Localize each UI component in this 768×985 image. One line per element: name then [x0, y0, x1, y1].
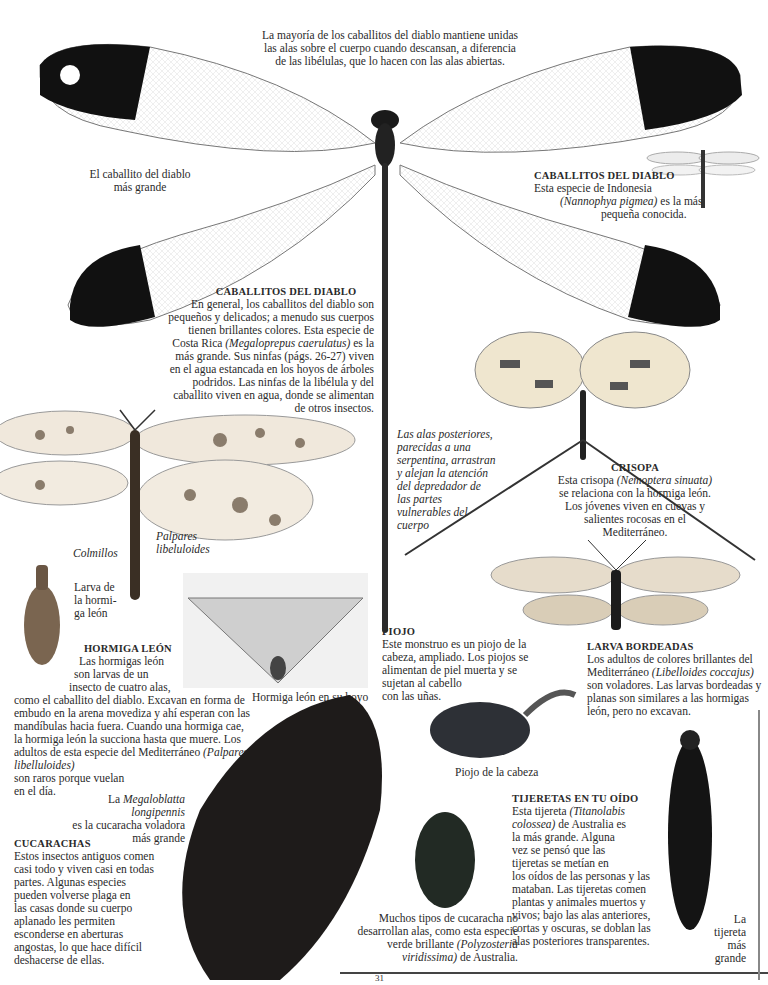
- body-line: deshacerse de ellas.: [14, 954, 179, 967]
- body-text: Esta tijereta: [512, 805, 569, 817]
- section-heading: HORMIGA LEÓN: [14, 642, 254, 655]
- body-line: Este monstruo es un piojo de la: [382, 638, 572, 651]
- label-line: libeluloides: [156, 543, 210, 556]
- body-line: angostas, lo que hace difícil: [14, 941, 179, 954]
- body-line: vez se pensó que las: [512, 844, 672, 857]
- body-text: de Australia es: [555, 818, 626, 830]
- label-line: Larva de: [74, 581, 116, 594]
- caption-line: viridissima) de Australia.: [340, 951, 518, 964]
- body-line: Estos insectos antiguos comen: [14, 850, 179, 863]
- body-line: Las hormigas león: [14, 655, 254, 668]
- caption-line: pequeña conocida.: [534, 208, 724, 221]
- head-louse-caption: Piojo de la cabeza: [455, 766, 538, 779]
- label-line: El caballito del diablo: [75, 168, 205, 181]
- species-name: viridissima): [402, 951, 457, 963]
- caption-line: (Nannophya pigmea) es la más: [534, 195, 724, 208]
- label-line: tijereta: [700, 926, 746, 939]
- body-line: son larvas de un: [14, 668, 254, 681]
- crisopa-section: CRISOPA Esta crisopa (Nemoptera sinuata)…: [556, 461, 714, 539]
- wingless-roach-caption: Muchos tipos de cucaracha no desarrollan…: [340, 912, 518, 964]
- species-name: (Nannophya pigmea): [560, 195, 657, 207]
- section-body: Esta crisopa (Nemoptera sinuata) se rela…: [556, 474, 714, 539]
- body-text: se relaciona con la hormiga león. Los jó…: [559, 487, 711, 538]
- larva-bordeadas-section: LARVA BORDEADAS Los adultos de colores b…: [587, 640, 767, 718]
- hindwings-note: Las alas posteriores, parecidas a una se…: [397, 428, 497, 532]
- section-body: Los adultos de colores brillantes del Me…: [587, 653, 767, 718]
- intro-line: de las libélulas, que lo hacen con las a…: [240, 55, 540, 68]
- caption-text: verde brillante: [387, 938, 457, 950]
- label-line: La: [700, 913, 746, 926]
- section-heading: CABALLITOS DEL DIABLO: [534, 169, 724, 182]
- caption-line: Muchos tipos de cucaracha no: [340, 912, 518, 925]
- head-louse-illustration: [425, 675, 585, 760]
- body-line: aplanado les permiten: [14, 915, 179, 928]
- body-text: Esta crisopa: [558, 474, 617, 486]
- owlfly-illustration: [488, 540, 748, 635]
- body-line: esconderse en aberturas: [14, 928, 179, 941]
- tijeretas-section: TIJERETAS EN TU OÍDO Esta tijereta (Tita…: [512, 792, 672, 948]
- palpares-label: Palpares libeluloides: [156, 530, 210, 556]
- cucarachas-section: CUCARACHAS Estos insectos antiguos comen…: [14, 837, 179, 967]
- body-line: casi todo y viven casi en todas: [14, 863, 179, 876]
- label-line: más grande: [75, 181, 205, 194]
- species-name: (Megaloprepus caerulatus): [225, 337, 350, 349]
- caption-line: Esta especie de Indonesia: [534, 182, 724, 195]
- label-line: más: [700, 939, 746, 952]
- label-line: ga león: [74, 607, 116, 620]
- bottom-rule: [340, 972, 768, 974]
- body-line: alas posteriores transparentes.: [512, 935, 672, 948]
- species-name: (Polyzosteria: [457, 938, 518, 950]
- page-edge: [758, 710, 760, 980]
- body-text: son voladores. Las larvas bordeadas y pl…: [587, 679, 761, 717]
- intro-caption: La mayoría de los caballitos del diablo …: [240, 29, 540, 68]
- wingless-cockroach-illustration: [410, 800, 480, 910]
- caption-line: es la cucaracha voladora: [55, 819, 185, 832]
- damselflies-section: CABALLITOS DEL DIABLO En general, los ca…: [168, 285, 374, 415]
- body-line: plantas y animales muertos y: [512, 896, 672, 909]
- body-line: mataban. Las tijeretas comen: [512, 883, 672, 896]
- section-heading: CRISOPA: [556, 461, 714, 474]
- body-line: partes. Algunas especies: [14, 876, 179, 889]
- caption-text: La: [108, 793, 123, 805]
- body-line: cortas y oscuras, se doblan las: [512, 922, 672, 935]
- caption-line: verde brillante (Polyzosteria: [340, 938, 518, 951]
- intro-line: La mayoría de los caballitos del diablo …: [240, 29, 540, 42]
- body-line: cabeza, ampliado. Los piojos se: [382, 651, 572, 664]
- species-name: colossea): [512, 818, 555, 830]
- section-heading: CUCARACHAS: [14, 837, 179, 850]
- caption-text: es la más: [657, 195, 702, 207]
- caption-line: La Megaloblatta longipennis: [55, 793, 185, 819]
- species-name: Megaloblatta longipennis: [123, 793, 185, 818]
- earwig-label: La tijereta más grande: [700, 913, 746, 965]
- species-name: (Nemoptera sinuata): [617, 474, 713, 486]
- label-line: grande: [700, 952, 746, 965]
- species-name: (Titanolabis: [569, 805, 625, 817]
- section-heading: TIJERETAS EN TU OÍDO: [512, 792, 672, 805]
- body-line: la más grande. Alguna: [512, 831, 672, 844]
- body-line: vivos; bajo las alas anteriores,: [512, 909, 672, 922]
- section-body: En general, los caballitos del diablo so…: [168, 298, 374, 415]
- antlion-larva-label: Larva de la hormi- ga león: [74, 581, 116, 620]
- body-line: tijeretas se metían en: [512, 857, 672, 870]
- caption-line: desarrollan alas, como esta especie: [340, 925, 518, 938]
- largest-damselfly-label: El caballito del diablo más grande: [75, 168, 205, 194]
- species-name: (Libelloides coccajus): [652, 666, 754, 678]
- label-line: la hormi-: [74, 594, 116, 607]
- section-heading: CABALLITOS DEL DIABLO: [168, 285, 374, 298]
- intro-line: las alas sobre el cuerpo cuando descansa…: [240, 42, 540, 55]
- body-line: pueden volverse plaga en: [14, 889, 179, 902]
- fangs-label: Colmillos: [73, 547, 118, 560]
- body-line: los oídos de las personas y las: [512, 870, 672, 883]
- section-heading: PIOJO: [382, 625, 572, 638]
- body-line: las casas donde su cuerpo: [14, 902, 179, 915]
- small-damselfly-caption: CABALLITOS DEL DIABLO Esta especie de In…: [534, 169, 724, 221]
- label-line: Palpares: [156, 530, 210, 543]
- earwig-illustration: [650, 725, 730, 940]
- page-number: 31: [375, 972, 384, 985]
- body-line: Esta tijereta (Titanolabis: [512, 805, 672, 818]
- caption-text: de Australia.: [457, 951, 518, 963]
- section-heading: LARVA BORDEADAS: [587, 640, 767, 653]
- body-line: colossea) de Australia es: [512, 818, 672, 831]
